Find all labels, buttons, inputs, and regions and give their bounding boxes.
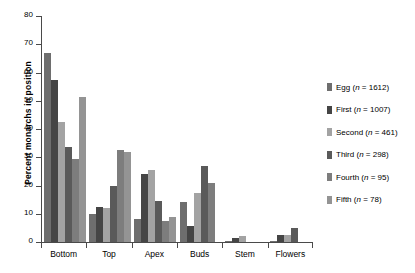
bar-bottom-second <box>58 122 65 242</box>
bar-buds-second <box>194 193 201 242</box>
y-axis-tick: 20 <box>36 186 41 187</box>
plot-area: 01020304050607080BottomTopApexBudsStemFl… <box>41 16 313 243</box>
y-axis-tick-label: 0 <box>29 236 33 245</box>
y-axis-tick-label: 70 <box>24 38 33 47</box>
bar-top-second <box>103 208 110 242</box>
bar-group-bottom <box>44 16 86 242</box>
legend-swatch-icon <box>327 106 332 114</box>
x-axis-label-apex: Apex <box>145 249 164 259</box>
legend-swatch-icon <box>327 196 332 204</box>
x-axis-label-top: Top <box>102 249 116 259</box>
bar-buds-egg <box>180 202 187 242</box>
bar-stem-second <box>239 236 246 242</box>
legend-item-third[interactable]: Third (n = 298) <box>327 144 415 167</box>
chart-legend: Egg (n = 1612)First (n = 1007)Second (n … <box>327 76 415 211</box>
legend-item-fifth[interactable]: Fifth (n = 78) <box>327 189 415 212</box>
y-axis-tick: 60 <box>36 73 41 74</box>
legend-item-egg[interactable]: Egg (n = 1612) <box>327 76 415 99</box>
bar-group-flowers <box>270 16 312 242</box>
bar-bottom-first <box>51 80 58 242</box>
y-axis-tick-label: 60 <box>24 67 33 76</box>
legend-item-label: Second (n = 461) <box>336 128 398 137</box>
bar-apex-first <box>141 174 148 242</box>
bar-group-buds <box>180 16 222 242</box>
legend-item-label: Fourth (n = 95) <box>336 173 389 182</box>
bar-group-stem <box>225 16 267 242</box>
bar-top-third <box>110 186 117 243</box>
x-axis-tick <box>177 243 178 248</box>
bar-buds-first <box>187 226 194 242</box>
bar-buds-third <box>201 166 208 242</box>
legend-swatch-icon <box>327 128 332 136</box>
legend-item-label: Third (n = 298) <box>336 150 389 159</box>
bar-group-top <box>89 16 131 242</box>
y-axis-tick: 80 <box>36 16 41 17</box>
x-axis-tick <box>41 243 42 248</box>
y-axis-tick-label: 50 <box>24 95 33 104</box>
bar-bottom-fourth <box>72 159 79 242</box>
legend-swatch-icon <box>327 151 332 159</box>
x-axis-tick <box>222 243 223 248</box>
bar-stem-egg <box>225 241 232 242</box>
x-axis-tick <box>312 243 313 248</box>
legend-swatch-icon <box>327 173 332 181</box>
bar-top-egg <box>89 214 96 242</box>
bar-flowers-egg <box>270 241 277 242</box>
y-axis-tick: 70 <box>36 44 41 45</box>
legend-swatch-icon <box>327 83 332 91</box>
bar-flowers-second <box>284 235 291 242</box>
legend-item-label: First (n = 1007) <box>336 105 390 114</box>
y-axis-tick: 50 <box>36 101 41 102</box>
y-axis-tick-label: 30 <box>24 151 33 160</box>
x-axis-label-buds: Buds <box>190 249 209 259</box>
y-axis-tick: 30 <box>36 157 41 158</box>
y-axis-tick-label: 10 <box>24 208 33 217</box>
bar-stem-first <box>232 238 239 242</box>
x-axis-label-bottom: Bottom <box>50 249 77 259</box>
y-axis-tick-label: 20 <box>24 180 33 189</box>
bar-flowers-third <box>291 228 298 242</box>
bar-apex-second <box>148 170 155 242</box>
bar-bottom-egg <box>44 53 51 242</box>
y-axis-tick-label: 40 <box>24 123 33 132</box>
bar-apex-egg <box>134 219 141 242</box>
bar-top-fourth <box>117 150 124 242</box>
y-axis-tick: 40 <box>36 129 41 130</box>
x-axis-tick <box>86 243 87 248</box>
bar-bottom-third <box>65 147 72 242</box>
x-axis-label-stem: Stem <box>235 249 255 259</box>
bar-top-first <box>96 207 103 242</box>
legend-item-fourth[interactable]: Fourth (n = 95) <box>327 166 415 189</box>
bar-buds-fourth <box>208 183 215 242</box>
x-axis-tick <box>132 243 133 248</box>
bar-chart-figure: Percent monarchs in position 01020304050… <box>0 0 415 273</box>
bar-top-fifth <box>124 152 131 242</box>
legend-item-label: Egg (n = 1612) <box>336 83 389 92</box>
bar-bottom-fifth <box>79 97 86 242</box>
bar-apex-third <box>155 201 162 242</box>
x-axis-label-flowers: Flowers <box>275 249 305 259</box>
y-axis-tick-label: 80 <box>24 10 33 19</box>
bar-apex-fourth <box>162 221 169 242</box>
legend-item-first[interactable]: First (n = 1007) <box>327 99 415 122</box>
legend-item-label: Fifth (n = 78) <box>336 195 382 204</box>
y-axis-line <box>41 16 42 243</box>
legend-item-second[interactable]: Second (n = 461) <box>327 121 415 144</box>
y-axis-tick: 10 <box>36 214 41 215</box>
bar-group-apex <box>134 16 176 242</box>
bar-flowers-first <box>277 235 284 242</box>
x-axis-tick <box>268 243 269 248</box>
bar-apex-fifth <box>169 217 176 242</box>
